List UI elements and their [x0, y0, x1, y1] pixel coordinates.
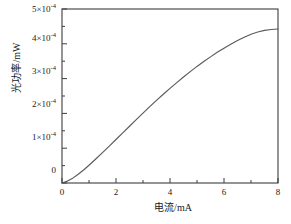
plot-canvas	[0, 0, 291, 224]
axes-frame	[62, 9, 278, 183]
figure-panel: 光功率/mW 0 1×10-4 2×10-4 3×10-4 4×10-4 5×1…	[0, 0, 291, 224]
plot-frame	[62, 9, 278, 183]
